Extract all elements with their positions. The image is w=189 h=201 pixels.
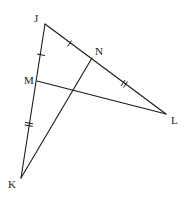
segment-ml — [37, 81, 166, 114]
segment-jk — [21, 24, 45, 178]
label-m: M — [24, 74, 34, 86]
tick-mark-jm — [37, 54, 45, 56]
label-j: J — [34, 12, 39, 24]
segment-jl — [45, 24, 166, 114]
triangle-diagram: J N M L K — [0, 0, 189, 201]
label-k: K — [8, 178, 16, 190]
label-n: N — [95, 45, 103, 57]
label-l: L — [171, 114, 178, 126]
